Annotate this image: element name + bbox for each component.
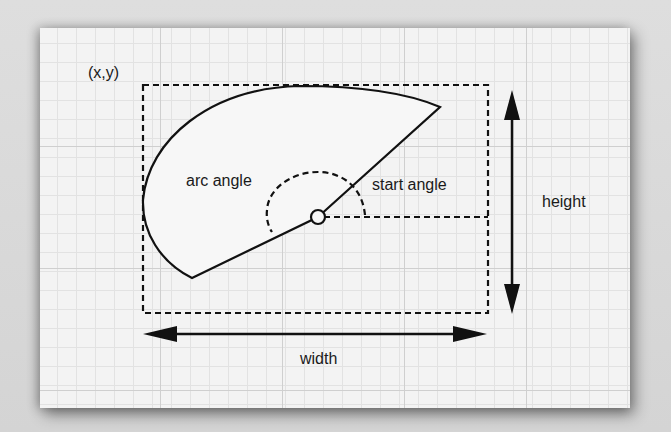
arc-angle-label: arc angle (186, 172, 252, 190)
center-point-icon (311, 210, 325, 224)
width-arrow-icon (143, 326, 487, 342)
origin-label: (x,y) (88, 64, 119, 82)
height-arrow-icon (504, 90, 520, 314)
start-angle-label: start angle (372, 176, 447, 194)
height-label: height (542, 193, 586, 211)
width-label: width (300, 350, 337, 368)
